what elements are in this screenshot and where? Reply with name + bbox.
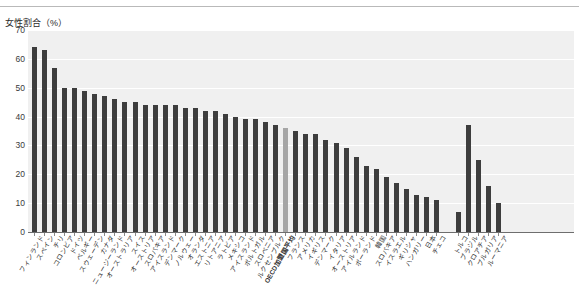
bar xyxy=(112,99,117,232)
y-axis-tick-label: 30 xyxy=(1,141,25,149)
bar xyxy=(163,105,168,232)
y-axis-tick-label: 40 xyxy=(1,113,25,121)
bar xyxy=(404,189,409,232)
bar xyxy=(233,117,238,232)
bar xyxy=(143,105,148,232)
y-axis-tick-labels: 010203040506070 xyxy=(0,28,25,234)
bar xyxy=(394,183,399,232)
chart-plot-wrapper: 010203040506070 xyxy=(0,28,579,234)
bar xyxy=(486,186,491,232)
bar xyxy=(414,195,419,233)
bar xyxy=(173,105,178,232)
bar xyxy=(496,203,501,232)
y-axis-tick-label: 70 xyxy=(1,26,25,34)
bar xyxy=(203,111,208,232)
bar xyxy=(384,177,389,232)
bar xyxy=(466,125,471,232)
bar xyxy=(62,88,67,232)
bar xyxy=(223,114,228,232)
bar xyxy=(122,102,127,232)
bar xyxy=(424,197,429,232)
bars-layer xyxy=(28,30,574,232)
bar xyxy=(133,102,138,232)
bar xyxy=(476,160,481,232)
top-divider xyxy=(0,6,579,7)
bar xyxy=(313,134,318,232)
bar xyxy=(153,105,158,232)
bar xyxy=(344,148,349,232)
y-axis-tick-label: 60 xyxy=(1,55,25,63)
y-axis-tick-label: 50 xyxy=(1,84,25,92)
bar xyxy=(243,119,248,232)
bar xyxy=(354,157,359,232)
x-axis-labels: フィンランドスペインチリコロンビアドイツベルギースウェーデンカナダニュージーラン… xyxy=(0,234,579,291)
bar xyxy=(263,122,268,232)
bar xyxy=(82,91,87,232)
bar xyxy=(52,68,57,232)
y-axis-tick-label: 10 xyxy=(1,199,25,207)
bar xyxy=(102,96,107,232)
bar xyxy=(303,134,308,232)
bar xyxy=(334,143,339,232)
bar xyxy=(374,169,379,232)
bar xyxy=(273,125,278,232)
bar xyxy=(193,108,198,232)
bar xyxy=(42,50,47,232)
bar xyxy=(253,119,258,232)
y-axis-tick-label: 20 xyxy=(1,170,25,178)
bar xyxy=(323,140,328,232)
bar xyxy=(92,94,97,233)
bar xyxy=(183,108,188,232)
bar xyxy=(32,47,37,232)
bar xyxy=(434,200,439,232)
bar xyxy=(364,166,369,232)
bar-oecd-average xyxy=(283,128,288,232)
bar xyxy=(72,88,77,232)
bar xyxy=(293,131,298,232)
bar xyxy=(456,212,461,232)
bar xyxy=(213,111,218,232)
